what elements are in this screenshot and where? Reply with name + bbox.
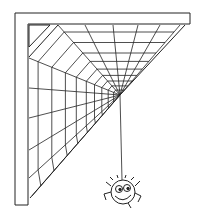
spider-thread <box>120 95 122 180</box>
spider-icon <box>104 175 141 208</box>
brace-edge <box>29 25 58 57</box>
corner-frame <box>15 13 190 205</box>
spider-web-illustration: (function(){ const g=document.getElement… <box>0 0 199 221</box>
corner-brace <box>29 25 50 47</box>
web <box>29 25 180 196</box>
